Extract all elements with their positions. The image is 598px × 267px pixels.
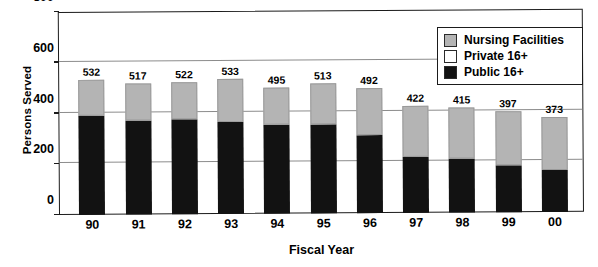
bar-group: 522 (171, 11, 198, 214)
bar-value-label: 492 (360, 74, 378, 86)
legend-item: Public 16+ (444, 64, 577, 80)
legend-swatch-icon (444, 34, 457, 47)
x-tick-label-93: 93 (224, 217, 238, 231)
x-tick-label-94: 94 (270, 217, 284, 231)
bar-segment-public (217, 122, 244, 214)
bar-segment-public (449, 159, 475, 213)
bar-segment-public (264, 124, 291, 213)
bar-group: 513 (309, 10, 336, 213)
x-tick-label-98: 98 (455, 215, 469, 229)
y-tick-label-200: 200 (12, 142, 54, 156)
y-tick-label-400: 400 (12, 92, 54, 106)
x-tick-label-91: 91 (132, 217, 146, 231)
bar-segment-public (356, 135, 382, 213)
bar-segment-nursing (310, 83, 336, 124)
bar-group: 517 (124, 11, 151, 214)
bar-segment-nursing (264, 88, 290, 124)
x-tick-label-97: 97 (409, 216, 423, 230)
bar-value-label: 532 (83, 66, 101, 78)
bar-segment-public (79, 116, 106, 215)
y-axis-ticks: 0200400600800 (8, 12, 54, 215)
x-tick-label-92: 92 (178, 217, 192, 231)
legend: Nursing FacilitiesPrivate 16+Public 16+ (437, 27, 583, 85)
x-tick-label-96: 96 (363, 216, 377, 230)
bar-chart: Persons Served 0200400600800 53251752253… (0, 0, 598, 267)
legend-item: Nursing Facilities (444, 32, 577, 48)
bar-segment-nursing (402, 106, 428, 157)
bar-segment-public (125, 120, 152, 215)
legend-label: Private 16+ (464, 49, 528, 63)
bar-group: 533 (217, 11, 244, 214)
y-tick-label-800: 800 (12, 0, 54, 4)
bar-value-label: 513 (314, 69, 332, 81)
legend-swatch-icon (444, 50, 457, 63)
bar-group: 532 (78, 12, 105, 215)
y-tick-label-0: 0 (12, 193, 54, 207)
bar-value-label: 397 (499, 97, 517, 109)
bar-segment-public (171, 119, 198, 214)
bar-value-label: 517 (129, 69, 147, 81)
bar-value-label: 422 (407, 92, 425, 104)
bar-value-label: 522 (175, 68, 193, 80)
bar-group: 495 (263, 11, 290, 214)
bar-group: 492 (356, 10, 383, 213)
bar-segment-nursing (217, 79, 243, 123)
bar-segment-public (542, 170, 568, 212)
bar-value-label: 533 (221, 65, 239, 77)
x-tick-label-00: 00 (548, 215, 562, 229)
x-tick-label-90: 90 (85, 218, 99, 232)
bar-value-label: 415 (453, 93, 471, 105)
bar-value-label: 373 (545, 103, 563, 115)
x-axis-ticks: 9091929394959697989900 (59, 215, 584, 242)
x-tick-label-95: 95 (317, 216, 331, 230)
bar-segment-nursing (171, 82, 197, 119)
bar-segment-nursing (78, 80, 104, 116)
bar-segment-nursing (449, 107, 475, 159)
legend-item: Private 16+ (444, 48, 577, 64)
bar-segment-nursing (356, 88, 382, 135)
bar-segment-nursing (125, 83, 151, 120)
bar-value-label: 495 (268, 74, 286, 86)
bar-segment-public (403, 156, 429, 212)
legend-label: Nursing Facilities (464, 33, 564, 47)
x-axis-title: Fiscal Year (59, 243, 584, 257)
x-tick-label-99: 99 (502, 215, 516, 229)
legend-swatch-icon (444, 66, 457, 79)
bar-segment-public (495, 165, 521, 212)
bar-segment-public (310, 124, 337, 213)
bar-segment-nursing (541, 117, 567, 170)
y-tick-label-600: 600 (12, 41, 54, 55)
legend-label: Public 16+ (464, 65, 524, 79)
bar-group: 422 (402, 10, 429, 213)
bar-segment-nursing (495, 111, 521, 165)
